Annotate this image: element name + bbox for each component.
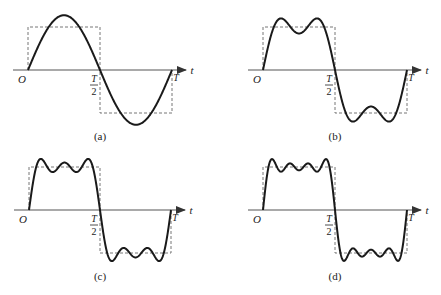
axis-label-t: t [189, 204, 193, 216]
half-period-denominator: 2 [327, 86, 332, 97]
half-period-denominator: 2 [92, 226, 97, 237]
panel-caption: (b) [329, 130, 342, 143]
half-period-denominator: 2 [92, 86, 97, 97]
period-label: T [173, 72, 180, 83]
period-label: T [408, 72, 415, 83]
half-period-numerator: T [91, 73, 98, 84]
origin-label: O [18, 73, 26, 85]
origin-label: O [253, 73, 261, 85]
fourier-square-wave-figure: OT2Tt(a)OT2Tt(b)OT2Tt(c)OT2Tt(d) [0, 0, 441, 295]
axis-label-t: t [425, 64, 429, 76]
panel-a: OT2Tt(a) [13, 15, 194, 143]
panel-caption: (d) [329, 270, 342, 283]
axis-label-t: t [190, 64, 194, 76]
period-label: T [408, 212, 415, 223]
half-period-numerator: T [326, 73, 333, 84]
half-period-denominator: 2 [327, 226, 332, 237]
panel-c: OT2Tt(c) [14, 159, 193, 283]
half-period-numerator: T [91, 213, 98, 224]
origin-label: O [253, 213, 261, 225]
origin-label: O [19, 213, 27, 225]
period-label: T [172, 212, 179, 223]
panel-caption: (c) [94, 270, 107, 283]
half-period-numerator: T [326, 213, 333, 224]
panel-b: OT2Tt(b) [248, 18, 429, 143]
panel-d: OT2Tt(d) [248, 159, 429, 283]
axis-label-t: t [425, 204, 429, 216]
panel-caption: (a) [94, 130, 107, 143]
